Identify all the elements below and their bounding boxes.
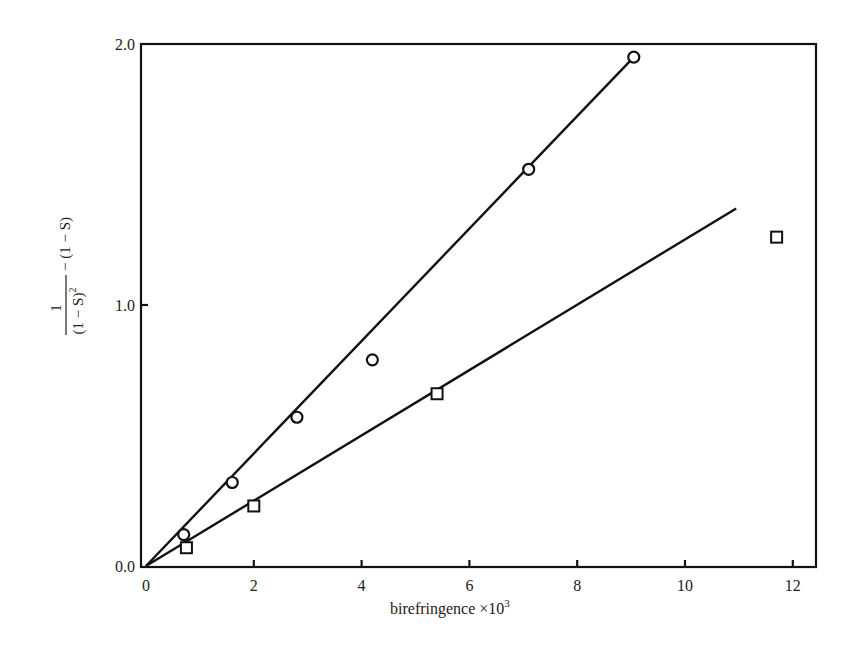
x-axis-title: birefringence ×103: [390, 597, 510, 618]
circle-marker: [291, 412, 302, 423]
y-tick-label: 1.0: [115, 297, 135, 314]
y-axis-ticks: 0.01.02.0: [115, 36, 148, 575]
plot-frame: [141, 44, 816, 567]
square-marker: [432, 388, 443, 399]
chart-canvas: 024681012 0.01.02.0 birefringence ×103 1…: [0, 0, 852, 655]
circle-marker: [227, 477, 238, 488]
square-marker: [771, 232, 782, 243]
plot-border: [141, 44, 816, 567]
y-axis-title: 1 (1 − S)2 − (1 − S): [48, 217, 87, 335]
x-tick-label: 8: [573, 577, 581, 594]
y-tick-label: 0.0: [115, 558, 135, 575]
y-tick-label: 2.0: [115, 36, 135, 53]
y-title-numerator: 1: [48, 304, 64, 312]
circle-marker: [523, 164, 534, 175]
x-tick-label: 12: [785, 577, 801, 594]
x-axis-ticks: 024681012: [142, 560, 801, 594]
circle-marker: [178, 529, 189, 540]
y-title-rest: − (1 − S): [57, 217, 74, 271]
x-tick-label: 10: [677, 577, 693, 594]
fit-line-squares: [146, 208, 736, 566]
x-tick-label: 0: [142, 577, 150, 594]
x-tick-label: 6: [465, 577, 473, 594]
square-marker: [181, 542, 192, 553]
data-points: [178, 52, 782, 554]
fit-lines: [146, 57, 736, 566]
circle-marker: [628, 52, 639, 63]
fit-line-circles: [146, 57, 634, 566]
x-tick-label: 4: [358, 577, 366, 594]
circle-marker: [367, 354, 378, 365]
y-title-denominator: (1 − S)2: [67, 288, 87, 335]
x-tick-label: 2: [250, 577, 258, 594]
square-marker: [248, 500, 259, 511]
